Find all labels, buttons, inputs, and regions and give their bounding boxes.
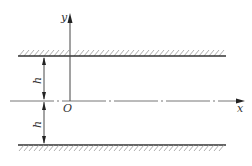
y-axis-label: y: [60, 11, 68, 24]
y-axis-arrow-icon: [68, 13, 73, 23]
lower-dimension-arrow-top-icon: [42, 102, 46, 110]
bottom-wall-hatching: [19, 145, 224, 151]
upper-half-height-label: h: [31, 77, 44, 84]
origin-label: O: [63, 102, 72, 115]
x-axis-label: x: [237, 102, 244, 115]
upper-dimension-arrow-bottom-icon: [42, 92, 46, 100]
upper-dimension-arrow-top-icon: [42, 57, 46, 65]
top-wall-hatching: [19, 50, 224, 56]
lower-half-height-label: h: [31, 121, 44, 128]
channel-diagram: y x O h h: [0, 0, 252, 166]
lower-dimension-arrow-bottom-icon: [42, 136, 46, 144]
